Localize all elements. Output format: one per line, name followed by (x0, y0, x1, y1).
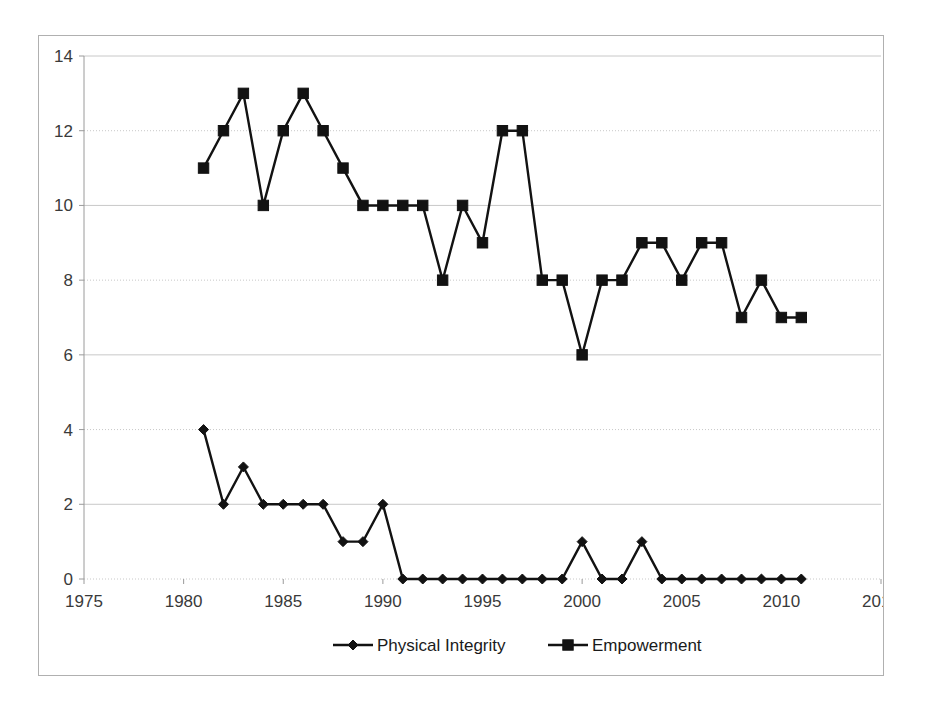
data-point-physical-integrity-2006 (697, 574, 707, 584)
series-lines-group (204, 93, 802, 579)
data-point-empowerment-2003 (637, 238, 647, 248)
data-point-empowerment-1995 (477, 238, 487, 248)
data-point-physical-integrity-1983 (238, 462, 248, 472)
chart-legend: Physical IntegrityEmpowerment (333, 636, 702, 655)
y-axis-label-6: 6 (64, 346, 73, 365)
data-point-empowerment-1988 (338, 163, 348, 173)
data-point-physical-integrity-1985 (278, 499, 288, 509)
data-point-empowerment-1981 (198, 163, 208, 173)
data-point-empowerment-1993 (437, 275, 447, 285)
data-point-empowerment-2010 (776, 312, 786, 322)
data-point-empowerment-2008 (736, 312, 746, 322)
legend-label-empowerment: Empowerment (592, 636, 702, 655)
y-tick-labels-group: 02468101214 (54, 47, 73, 589)
data-point-empowerment-2006 (696, 238, 706, 248)
data-point-physical-integrity-2007 (717, 574, 727, 584)
y-axis-label-8: 8 (64, 271, 73, 290)
x-axis-label-1985: 1985 (264, 592, 302, 611)
data-point-empowerment-2001 (597, 275, 607, 285)
y-axis-label-0: 0 (64, 570, 73, 589)
data-point-physical-integrity-1982 (218, 499, 228, 509)
data-point-physical-integrity-1987 (318, 499, 328, 509)
data-point-physical-integrity-1995 (478, 574, 488, 584)
data-point-empowerment-2011 (796, 312, 806, 322)
chart-frame: 02468101214 1975198019851990199520002005… (38, 35, 884, 676)
data-point-empowerment-1984 (258, 200, 268, 210)
data-point-empowerment-1985 (278, 126, 288, 136)
data-point-empowerment-1999 (557, 275, 567, 285)
data-point-physical-integrity-2002 (617, 574, 627, 584)
y-axis-label-10: 10 (54, 196, 73, 215)
chart-container: 02468101214 1975198019851990199520002005… (0, 0, 925, 714)
data-point-physical-integrity-2011 (796, 574, 806, 584)
legend-marker-square-icon (563, 640, 573, 650)
y-axis-label-2: 2 (64, 495, 73, 514)
data-point-empowerment-1991 (398, 200, 408, 210)
data-point-physical-integrity-2009 (756, 574, 766, 584)
gridlines-group (84, 56, 881, 579)
data-point-empowerment-1989 (358, 200, 368, 210)
data-point-physical-integrity-1994 (458, 574, 468, 584)
data-point-physical-integrity-2005 (677, 574, 687, 584)
y-axis-label-4: 4 (64, 421, 73, 440)
data-point-empowerment-1998 (537, 275, 547, 285)
data-point-physical-integrity-2010 (776, 574, 786, 584)
data-point-empowerment-1990 (378, 200, 388, 210)
data-point-physical-integrity-1997 (517, 574, 527, 584)
data-point-empowerment-1983 (238, 88, 248, 98)
x-tick-labels-group: 197519801985199019952000200520102015 (65, 592, 883, 611)
data-point-physical-integrity-1984 (258, 499, 268, 509)
data-point-empowerment-2009 (756, 275, 766, 285)
x-axis-label-1990: 1990 (364, 592, 402, 611)
line-chart-plot: 02468101214 1975198019851990199520002005… (39, 36, 883, 675)
x-axis-label-2000: 2000 (563, 592, 601, 611)
x-axis-label-1995: 1995 (464, 592, 502, 611)
data-point-empowerment-2007 (716, 238, 726, 248)
data-point-empowerment-1987 (318, 126, 328, 136)
data-point-physical-integrity-1986 (298, 499, 308, 509)
data-point-empowerment-1986 (298, 88, 308, 98)
data-point-empowerment-1997 (517, 126, 527, 136)
data-point-physical-integrity-1989 (358, 537, 368, 547)
series-markers-group (198, 88, 806, 584)
data-point-empowerment-2004 (657, 238, 667, 248)
data-point-physical-integrity-2001 (597, 574, 607, 584)
data-point-empowerment-1994 (457, 200, 467, 210)
data-point-empowerment-1982 (218, 126, 228, 136)
x-axis-label-2015: 2015 (862, 592, 883, 611)
data-point-physical-integrity-1996 (497, 574, 507, 584)
data-point-physical-integrity-1990 (378, 499, 388, 509)
y-tick-marks-group (79, 56, 84, 579)
y-axis-label-12: 12 (54, 122, 73, 141)
data-point-physical-integrity-1998 (537, 574, 547, 584)
data-point-physical-integrity-2000 (577, 537, 587, 547)
data-point-empowerment-2005 (677, 275, 687, 285)
x-axis-label-2005: 2005 (663, 592, 701, 611)
data-point-empowerment-1996 (497, 126, 507, 136)
data-point-physical-integrity-1992 (418, 574, 428, 584)
x-axis-label-1980: 1980 (165, 592, 203, 611)
data-point-physical-integrity-1991 (398, 574, 408, 584)
data-point-physical-integrity-2004 (657, 574, 667, 584)
data-point-physical-integrity-1993 (438, 574, 448, 584)
y-axis-label-14: 14 (54, 47, 73, 66)
data-point-physical-integrity-2008 (737, 574, 747, 584)
legend-marker-diamond-icon (348, 640, 358, 650)
data-point-physical-integrity-2003 (637, 537, 647, 547)
legend-label-physical-integrity: Physical Integrity (377, 636, 506, 655)
data-point-physical-integrity-1999 (557, 574, 567, 584)
data-point-empowerment-1992 (418, 200, 428, 210)
data-point-empowerment-2002 (617, 275, 627, 285)
x-axis-label-2010: 2010 (762, 592, 800, 611)
data-point-physical-integrity-1988 (338, 537, 348, 547)
data-point-physical-integrity-1981 (199, 425, 209, 435)
x-axis-label-1975: 1975 (65, 592, 103, 611)
data-point-empowerment-2000 (577, 350, 587, 360)
